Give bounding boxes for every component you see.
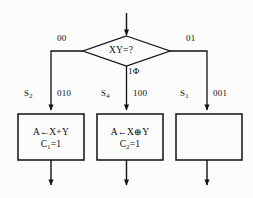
expression-2: X⊕Y	[127, 127, 149, 137]
state-box-1-line1: A←X+Y	[18, 126, 84, 138]
register-a-label-2: A	[111, 127, 118, 137]
carry-2-value: =1	[130, 139, 141, 149]
state-code-2: 100	[133, 89, 147, 98]
state-box-2-line2: C2=1	[97, 138, 163, 151]
carry-1-sub: 1	[47, 143, 50, 150]
assign-arrow-icon-2: ←	[118, 127, 127, 137]
state-box-1-content: A←X+Y C1=1	[18, 126, 84, 151]
state-name-1: S2	[24, 89, 33, 98]
branch-label-1phi: 1Φ	[128, 67, 139, 76]
branch-path-left	[51, 51, 83, 110]
state-box-3	[176, 114, 242, 160]
state-box-2-content: A←X⊕Y C2=1	[97, 126, 163, 151]
assign-arrow-icon: ←	[40, 127, 49, 137]
expression-1: X+Y	[49, 127, 69, 137]
state-name-3: S1	[180, 89, 189, 98]
state-code-3: 001	[213, 89, 227, 98]
state-name-1-sub: 2	[29, 92, 32, 99]
branch-path-right	[170, 51, 207, 110]
state-name-2: S4	[101, 89, 110, 98]
state-code-1: 010	[57, 89, 71, 98]
state-name-3-sub: 1	[185, 92, 188, 99]
state-box-2-line1: A←X⊕Y	[97, 126, 163, 138]
carry-1-value: =1	[51, 139, 62, 149]
state-box-1-line2: C1=1	[18, 138, 84, 151]
asm-chart-diagram: XY=? 00 1Φ 01 S2 010 S4 100 S1 001 A←X+Y…	[0, 0, 253, 198]
state-name-2-sub: 4	[106, 92, 109, 99]
branch-label-01: 01	[186, 34, 195, 43]
carry-2-sub: 2	[126, 143, 129, 150]
decision-label: XY=?	[109, 46, 133, 56]
diagram-canvas	[0, 0, 253, 198]
branch-label-00: 00	[57, 34, 66, 43]
